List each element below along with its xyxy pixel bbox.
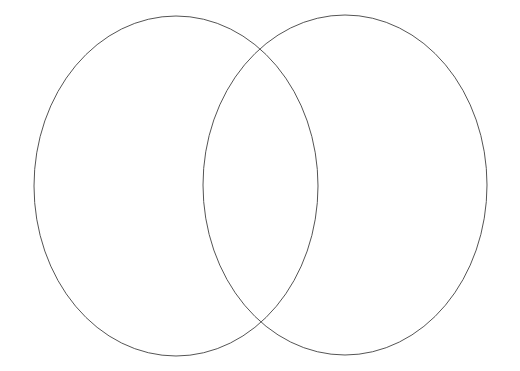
venn-label-layer [0,0,520,371]
venn-diagram-canvas [0,0,520,371]
